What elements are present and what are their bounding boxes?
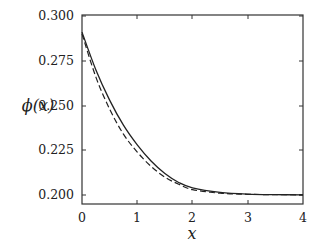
x-tick-label: 2 bbox=[188, 210, 196, 225]
series-dashed-line bbox=[82, 34, 303, 195]
x-tick-label: 4 bbox=[299, 210, 307, 225]
y-tick-label: 0.225 bbox=[38, 142, 74, 157]
x-tick-label: 0 bbox=[78, 210, 86, 225]
x-tick-label: 3 bbox=[244, 210, 252, 225]
y-tick-label: 0.300 bbox=[38, 8, 74, 23]
x-tick-label: 1 bbox=[133, 210, 141, 225]
x-axis-label: x bbox=[187, 224, 196, 243]
y-tick-label: 0.275 bbox=[38, 53, 74, 68]
x-ticks bbox=[137, 15, 248, 204]
y-ticks bbox=[82, 16, 303, 195]
series-solid-line bbox=[82, 32, 303, 195]
y-axis-label: ϕ(x) bbox=[22, 96, 54, 115]
y-tick-label: 0.200 bbox=[38, 187, 74, 202]
chart: 0.300 0.275 0.250 0.225 0.200 0 1 2 3 4 … bbox=[0, 0, 318, 247]
